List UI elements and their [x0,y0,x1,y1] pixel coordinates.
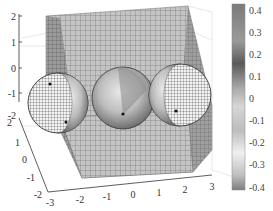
z-tick-label: 1 [11,37,16,48]
x-axis: -3 -2 -1 0 1 2 3 [46,175,215,208]
z-tick-label: 0 [11,63,16,74]
y-axis: 2 1 0 -1 -2 [7,117,48,200]
z-axis: 2 1 0 -1 -2 [8,11,22,121]
x-tick-label: 3 [210,181,215,192]
x-tick-label: -1 [103,191,111,202]
colorbar-gradient [232,4,245,190]
x-tick-label: 0 [131,189,136,200]
chart: 2 1 0 -1 -2 2 1 0 -1 -2 -3 -2 -1 0 1 2 3… [0,0,273,211]
z-tick-label: -1 [8,88,16,99]
colorbar-tick-label: 0.1 [249,71,262,82]
y-tick-label: 1 [15,137,20,148]
x-tick-label: -2 [76,194,84,205]
y-tick-label: -1 [27,172,35,183]
colorbar-tick-label: 0.4 [249,5,262,16]
sphere-center [92,67,154,129]
x-tick-label: 1 [157,187,162,198]
x-tick-label: 2 [183,184,188,195]
colorbar-tick-label: -0.3 [249,159,265,170]
sphere-right [149,64,211,126]
colorbar-tick-label: 0.3 [249,27,262,38]
colorbar-tick-label: -0.1 [249,115,265,126]
colorbar: 0.40.30.20.10-0.1-0.2-0.3-0.4 [232,4,265,193]
x-tick-label: -3 [46,197,54,208]
y-tick-label: -2 [34,189,42,200]
colorbar-tick-label: -0.2 [249,137,265,148]
colorbar-tick-label: 0 [249,93,254,104]
colorbar-tick-label: -0.4 [249,182,265,193]
z-tick-label: 2 [11,11,16,22]
y-tick-label: 2 [7,117,12,128]
colorbar-tick-label: 0.2 [249,49,262,60]
sphere-left [28,73,88,133]
y-tick-label: 0 [22,154,27,165]
